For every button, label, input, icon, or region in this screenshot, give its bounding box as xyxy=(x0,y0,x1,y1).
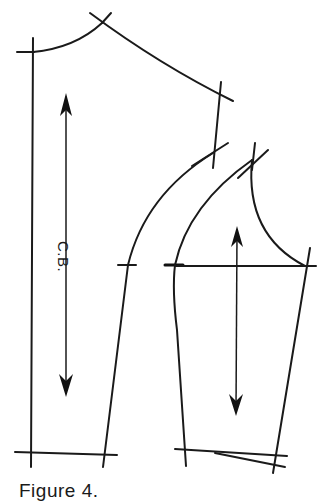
shoulder-line xyxy=(90,13,233,101)
side-seam xyxy=(103,265,128,467)
neck-point-tick xyxy=(102,13,111,23)
sleeve-right-seam xyxy=(273,248,310,473)
armhole-upper-line xyxy=(213,82,221,168)
back-bodice-piece xyxy=(15,13,233,467)
sleeve-piece xyxy=(165,143,316,473)
center-back-line xyxy=(31,38,33,467)
center-back-label: C.B. xyxy=(52,241,72,281)
sleeve-hem-line xyxy=(175,449,287,456)
pattern-diagram xyxy=(0,0,329,504)
neckline-curve xyxy=(33,23,102,52)
sleeve-cap-curve xyxy=(251,160,305,266)
sleeve-left-seam xyxy=(174,265,186,466)
figure-caption: Figure 4. xyxy=(19,480,98,502)
sleeve-grainline xyxy=(236,232,237,411)
